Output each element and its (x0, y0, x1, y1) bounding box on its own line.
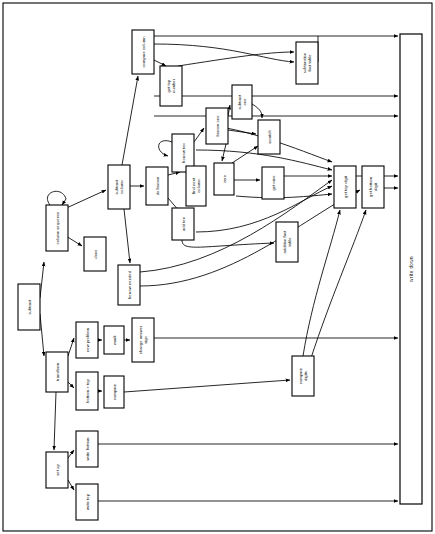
node-label: borrow ten (181, 142, 186, 163)
node-write-top[interactable]: write top (76, 484, 98, 520)
node-get-top-number[interactable]: get topnumber (160, 66, 182, 106)
node-subtract-one[interactable]: subtractone (232, 85, 252, 119)
node-borrow-needed[interactable]: borrow needed (118, 265, 140, 305)
node-label: borrow needed (127, 270, 132, 299)
node-label: subtractionfact table (302, 52, 312, 73)
node-label: new problem (85, 327, 90, 352)
node-label: subtractcolumn (114, 179, 124, 195)
node-borrow-one[interactable]: borrow one (206, 108, 228, 144)
node-label: compare column (141, 36, 146, 68)
node-label: mark (112, 334, 117, 344)
node-layer: subtractcolumn sequenceset uptransformdo… (18, 30, 422, 520)
node-write-down[interactable]: write down (400, 34, 422, 504)
node-label: get topnumber (166, 78, 176, 93)
node-get-bottom-digit[interactable]: get bottomdigit (362, 166, 384, 208)
node-subtract[interactable]: subtract (18, 284, 40, 330)
node-find-next-column[interactable]: find nextcolumn (186, 166, 206, 206)
node-label: borrow one (215, 115, 220, 137)
node-compare-column[interactable]: compare column (132, 30, 154, 74)
node-zero[interactable]: zero (214, 163, 234, 195)
node-label: subtract (27, 299, 32, 315)
node-mark[interactable]: mark (104, 326, 124, 354)
node-subtraction-fact-table[interactable]: subtractionfact table (296, 42, 318, 84)
node-addition-fact-table[interactable]: addition facttable (276, 222, 298, 262)
node-compare-digits[interactable]: comparedigits (292, 356, 314, 396)
node-done[interactable]: done (84, 237, 106, 271)
node-write-bottom[interactable]: write bottom (76, 431, 98, 467)
node-do-borrow[interactable]: do borrow (146, 167, 168, 205)
node-label: done (93, 249, 98, 259)
node-label: find nextcolumn (191, 177, 201, 194)
node-label: bottom > top (85, 379, 90, 403)
node-scratch[interactable]: scratch (258, 120, 280, 154)
node-compare[interactable]: compare (104, 376, 124, 408)
node-label: compare (112, 383, 117, 400)
node-get-top-digit[interactable]: get top digit (334, 166, 356, 208)
node-transform[interactable]: transform (46, 352, 68, 392)
flowchart-svg: subtractcolumn sequenceset uptransformdo… (0, 0, 435, 534)
node-label: zero (222, 174, 227, 183)
node-label: set up (55, 464, 60, 476)
node-add-ten[interactable]: add ten (172, 208, 194, 240)
node-label: write bottom (85, 437, 90, 460)
node-label: get top digit (343, 175, 348, 198)
node-column-sequence[interactable]: column sequence (46, 205, 68, 251)
node-label: write down (409, 256, 414, 282)
node-label: add ten (181, 216, 186, 231)
node-set-up[interactable]: set up (46, 452, 68, 488)
node-bottom-gt-top[interactable]: bottom > top (76, 372, 98, 410)
node-subtract-column[interactable]: subtractcolumn (108, 165, 130, 209)
node-get-nine[interactable]: get nine (262, 167, 284, 199)
node-label: column sequence (55, 211, 60, 245)
diagram-canvas: subtractcolumn sequenceset uptransformdo… (0, 0, 435, 534)
node-label: transform (55, 363, 60, 381)
node-label: write top (85, 493, 90, 510)
node-label: do borrow (155, 177, 160, 196)
node-change-answer-sign[interactable]: change answersign (132, 318, 154, 362)
node-label: scratch (267, 130, 272, 144)
node-new-problem[interactable]: new problem (76, 322, 98, 358)
node-label: get nine (271, 175, 276, 191)
